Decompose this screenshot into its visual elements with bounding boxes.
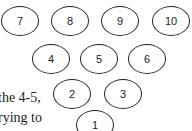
pin-8: 8: [51, 6, 89, 36]
pin-1: 1: [76, 110, 114, 131]
pin-2: 2: [53, 79, 91, 109]
pin-6: 6: [128, 44, 166, 74]
pin-9: 9: [101, 6, 139, 36]
body-text-line-2: rying to: [0, 110, 42, 126]
pin-5: 5: [80, 44, 118, 74]
pin-7: 7: [1, 6, 39, 36]
pin-4: 4: [32, 44, 70, 74]
body-text-line-1: the 4-5,: [0, 90, 41, 106]
pin-10: 10: [152, 6, 190, 36]
pin-3: 3: [104, 79, 142, 109]
